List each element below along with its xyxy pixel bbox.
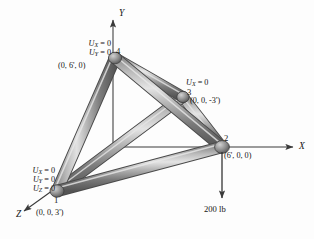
node-1-coordinate: (0, 0, 3')	[36, 209, 63, 218]
node-2-label: 2	[224, 134, 228, 143]
node-4-coordinate: (0, 6', 0)	[58, 62, 85, 71]
node-1-label: 1	[54, 196, 58, 205]
axis-label-x: X	[299, 141, 305, 151]
node-4-label: 4	[116, 47, 120, 56]
node-2-coordinate: (6', 0, 0)	[224, 152, 251, 161]
axis-label-z: Z	[16, 209, 21, 219]
truss-diagram	[0, 0, 314, 239]
figure-canvas: Y X Z UX = 0 UY = 0 4 (0, 6', 0) UX = 0 …	[0, 0, 314, 239]
load-label: 200 lb	[204, 205, 226, 214]
axis-label-y: Y	[119, 8, 124, 18]
node-1-constraints: UX = 0 UY = 0 UZ = 0	[10, 167, 55, 194]
node-3-coordinate: (0, 0, -3')	[190, 97, 220, 106]
truss-members	[55, 55, 223, 191]
node-4-constraints: UX = 0 UY = 0	[63, 40, 111, 58]
